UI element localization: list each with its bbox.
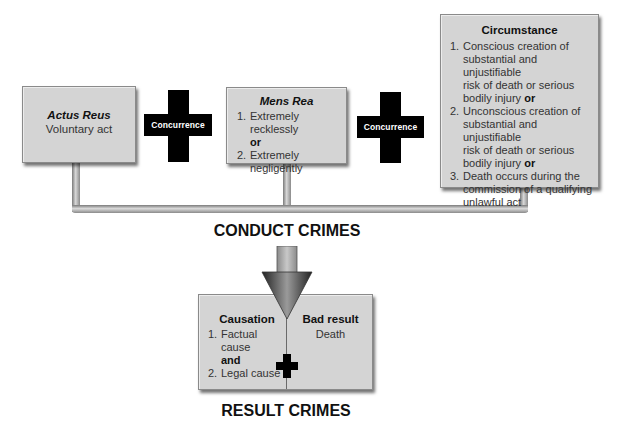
circumstance-item-1: 1.Conscious creation ofsubstantial and u… xyxy=(450,40,598,105)
bad-result-text: Death xyxy=(287,328,374,341)
actus-reus-title: Actus Reus xyxy=(23,109,135,121)
down-arrow-icon xyxy=(260,246,314,320)
circumstance-list: 1.Conscious creation ofsubstantial and u… xyxy=(450,40,598,209)
mens-rea-item-1: 1.Extremely recklessly xyxy=(237,110,346,136)
result-crimes-heading: RESULT CRIMES xyxy=(186,402,386,420)
circumstance-title: Circumstance xyxy=(450,24,598,36)
mens-rea-box: Mens Rea 1.Extremely recklessly or 2.Ext… xyxy=(226,87,347,164)
circumstance-item-3: 3.Death occurs during thecommission of a… xyxy=(450,170,598,209)
mens-rea-list: 1.Extremely recklessly or 2.Extremely ne… xyxy=(237,110,346,175)
actus-reus-box: Actus Reus Voluntary act xyxy=(22,86,136,163)
causation-item-2: 2.Legal cause xyxy=(208,367,286,380)
concurrence-cross-1: Concurrence xyxy=(144,90,212,162)
concurrence-label-1: Concurrence xyxy=(151,120,205,130)
mens-rea-item-2: 2.Extremely negligently xyxy=(237,149,346,175)
concurrence-cross-2: Concurrence xyxy=(357,92,424,163)
causation-item-1: 1.Factual cause xyxy=(208,328,286,354)
mens-rea-title: Mens Rea xyxy=(237,95,346,107)
circumstance-item-2: 2.Unconscious creation ofsubstantial and… xyxy=(450,105,598,170)
causation-connector: and xyxy=(208,354,286,367)
plus-icon xyxy=(276,354,298,378)
causation-list: 1.Factual cause and 2.Legal cause xyxy=(208,328,286,380)
circumstance-box: Circumstance 1.Conscious creation ofsubs… xyxy=(440,14,599,188)
causation-section: Causation 1.Factual cause and 2.Legal ca… xyxy=(208,313,286,380)
mens-rea-connector: or xyxy=(237,136,346,149)
conduct-crimes-heading: CONDUCT CRIMES xyxy=(187,222,387,240)
concurrence-label-2: Concurrence xyxy=(364,122,418,132)
actus-reus-text: Voluntary act xyxy=(23,123,135,136)
